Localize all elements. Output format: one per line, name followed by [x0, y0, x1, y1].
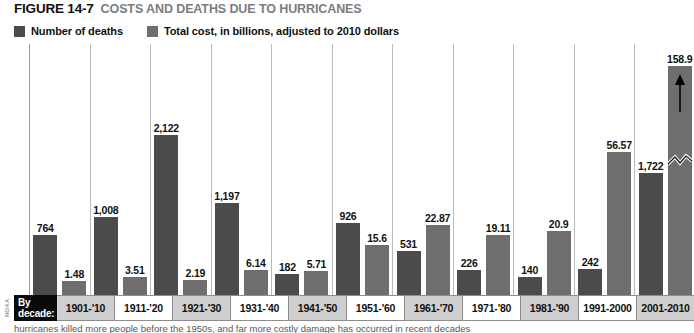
deaths-bar[interactable] — [336, 223, 360, 295]
cost-bar-wrap: 3.51 — [123, 44, 147, 295]
decade-cell[interactable]: 1941-'50 — [289, 296, 347, 320]
legend-label-deaths: Number of deaths — [31, 25, 123, 37]
axis-strip: NOAA By decade: 1901-'101911-'201921-'30… — [0, 295, 694, 321]
cost-bar-wrap: 56.57 — [607, 44, 631, 295]
page-title: COSTS AND DEATHS DUE TO HURRICANES — [101, 2, 362, 16]
figure-title-row: FIGURE 14-7 COSTS AND DEATHS DUE TO HURR… — [14, 1, 362, 18]
bar-group: 1,1976.14 — [212, 44, 273, 295]
deaths-bar-wrap: 531 — [397, 44, 421, 295]
cost-bar-value: 158.9 — [667, 54, 692, 65]
decade-cell[interactable]: 1911-'20 — [115, 296, 173, 320]
deaths-bar-wrap: 140 — [518, 44, 542, 295]
deaths-bar[interactable] — [639, 173, 663, 295]
deaths-bar-wrap: 2,122 — [154, 44, 178, 295]
bar-group: 7641.48 — [30, 44, 91, 295]
deaths-swatch — [14, 26, 25, 37]
cost-bar[interactable] — [486, 235, 510, 295]
decade-cell[interactable]: 1951-'60 — [347, 296, 405, 320]
deaths-bar-wrap: 926 — [336, 44, 360, 295]
cost-bar-wrap: 1.48 — [62, 44, 86, 295]
cost-bar-wrap: 2.19 — [183, 44, 207, 295]
deaths-bar-value: 1,197 — [214, 191, 239, 202]
cost-bar-wrap: 20.9 — [547, 44, 571, 295]
bar-group: 14020.9 — [514, 44, 575, 295]
legend-label-cost: Total cost, in billions, adjusted to 201… — [164, 25, 399, 37]
deaths-bar-value: 242 — [582, 257, 599, 268]
cost-bar-wrap: 6.14 — [244, 44, 268, 295]
chart-legend: Number of deaths Total cost, in billions… — [14, 24, 399, 38]
decade-cells: 1901-'101911-'201921-'301931-'401941-'50… — [57, 295, 694, 321]
figure-caption: hurricanes killed more people before the… — [14, 323, 694, 333]
cost-bar[interactable] — [62, 281, 86, 295]
axis-label-by-decade: By decade: — [14, 295, 57, 321]
cost-bar[interactable] — [365, 245, 389, 295]
cost-bar-value: 5.71 — [307, 259, 327, 270]
credit-text: NOAA — [4, 299, 10, 317]
bar-group: 1,0083.51 — [91, 44, 152, 295]
bar-group: 22619.11 — [454, 44, 515, 295]
figure-container: FIGURE 14-7 COSTS AND DEATHS DUE TO HURR… — [0, 0, 694, 333]
deaths-bar-wrap: 226 — [457, 44, 481, 295]
decade-cell[interactable]: 1991-2000 — [579, 296, 637, 320]
deaths-bar-wrap: 1,197 — [215, 44, 239, 295]
cost-bar[interactable] — [304, 271, 328, 295]
deaths-bar-wrap: 1,008 — [94, 44, 118, 295]
cost-bar-value: 22.87 — [425, 213, 450, 224]
deaths-bar[interactable] — [457, 270, 481, 295]
figure-number: FIGURE 14-7 — [14, 1, 94, 16]
cost-bar-truncated[interactable] — [668, 66, 692, 295]
deaths-bar[interactable] — [397, 251, 421, 295]
axis-label-line2: decade: — [18, 308, 57, 319]
cost-bar-wrap: 19.11 — [486, 44, 510, 295]
decade-cell[interactable]: 1981-'90 — [521, 296, 579, 320]
deaths-bar[interactable] — [275, 274, 299, 295]
photo-credit: NOAA — [0, 295, 14, 321]
cost-bar[interactable] — [607, 152, 631, 295]
bar-groups: 7641.481,0083.512,1222.191,1976.141825.7… — [30, 44, 694, 295]
up-arrow-icon — [668, 74, 692, 112]
decade-cell[interactable]: 2001-2010 — [637, 296, 694, 320]
cost-bar[interactable] — [244, 270, 268, 295]
bar-group: 1,722158.9 — [635, 44, 694, 295]
cost-bar-value: 1.48 — [64, 269, 84, 280]
axis-label-line1: By — [18, 297, 57, 308]
cost-bar-wrap: 5.71 — [304, 44, 328, 295]
cost-bar[interactable] — [547, 231, 571, 295]
cost-bar-value: 56.57 — [607, 140, 632, 151]
deaths-bar-wrap: 1,722 — [639, 44, 663, 295]
cost-bar-wrap: 15.6 — [365, 44, 389, 295]
plot-area: 7641.481,0083.512,1222.191,1976.141825.7… — [29, 44, 694, 295]
axis-break-icon — [667, 152, 693, 170]
cost-bar-wrap: 22.87 — [426, 44, 450, 295]
cost-bar-value: 2.19 — [186, 268, 206, 279]
deaths-bar-wrap: 764 — [33, 44, 57, 295]
legend-item-cost: Total cost, in billions, adjusted to 201… — [147, 25, 399, 37]
decade-cell[interactable]: 1961-'70 — [405, 296, 463, 320]
deaths-bar[interactable] — [33, 235, 57, 295]
decade-cell[interactable]: 1921-'30 — [173, 296, 231, 320]
legend-item-deaths: Number of deaths — [14, 25, 123, 37]
deaths-bar-value: 226 — [461, 258, 478, 269]
cost-bar-value: 19.11 — [486, 223, 511, 234]
cost-bar-value: 3.51 — [125, 265, 145, 276]
deaths-bar[interactable] — [154, 135, 178, 295]
deaths-bar[interactable] — [215, 203, 239, 295]
deaths-bar[interactable] — [94, 217, 118, 295]
decade-cell[interactable]: 1931-'40 — [231, 296, 289, 320]
cost-bar-value: 15.6 — [367, 233, 387, 244]
decade-cell[interactable]: 1901-'10 — [57, 296, 115, 320]
deaths-bar[interactable] — [518, 277, 542, 295]
deaths-bar-value: 140 — [521, 265, 538, 276]
bar-group: 53122.87 — [393, 44, 454, 295]
cost-bar[interactable] — [123, 277, 147, 295]
decade-cell[interactable]: 1971-'80 — [463, 296, 521, 320]
deaths-bar-value: 2,122 — [154, 123, 179, 134]
deaths-bar-wrap: 242 — [578, 44, 602, 295]
bar-group: 1825.71 — [272, 44, 333, 295]
deaths-bar-wrap: 182 — [275, 44, 299, 295]
deaths-bar[interactable] — [578, 269, 602, 295]
cost-bar[interactable] — [183, 280, 207, 295]
cost-bar-value: 6.14 — [246, 258, 266, 269]
bar-group: 24256.57 — [575, 44, 636, 295]
cost-bar[interactable] — [426, 225, 450, 295]
